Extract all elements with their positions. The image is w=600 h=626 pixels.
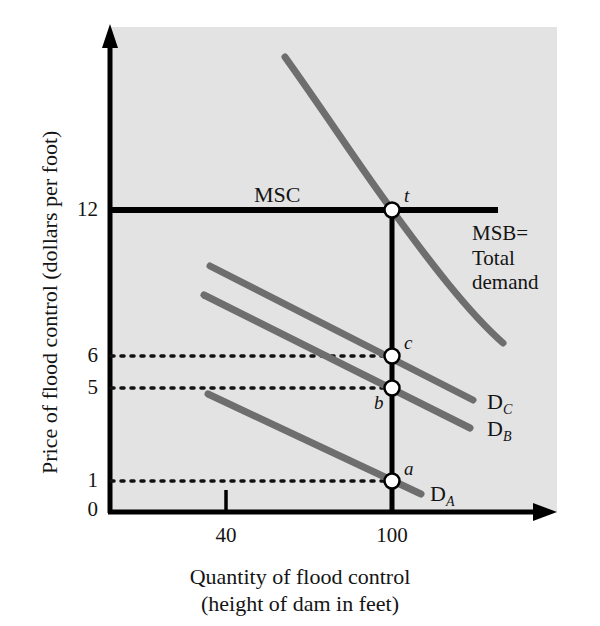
msb-label-line1: MSB=	[472, 221, 538, 246]
point-marker-c	[385, 349, 400, 364]
point-label-a: a	[404, 459, 414, 479]
msb-label-line2: Total	[472, 246, 538, 271]
x-tick-label-40: 40	[186, 524, 266, 546]
y-tick-label-6: 6	[62, 344, 98, 366]
point-marker-t	[385, 203, 400, 218]
point-label-c: c	[404, 333, 412, 353]
demand-label-dc-subscript: C	[503, 402, 512, 417]
y-tick-label-1: 1	[62, 469, 98, 491]
point-marker-b	[385, 381, 400, 396]
economics-figure: 12 6 5 1 0 40 100 MSC MSB= Total demand …	[0, 0, 600, 626]
demand-label-da-base: D	[430, 481, 446, 506]
x-axis-title-line1: Quantity of flood control	[0, 565, 600, 588]
x-axis-title-line2: (height of dam in feet)	[0, 592, 600, 615]
point-marker-a	[385, 474, 400, 489]
msc-label: MSC	[254, 183, 300, 206]
msb-total-demand-label: MSB= Total demand	[472, 221, 538, 295]
chart-canvas	[0, 0, 600, 626]
x-tick-label-100: 100	[352, 524, 432, 546]
demand-label-dc: DC	[487, 390, 512, 418]
point-label-b: b	[374, 393, 384, 413]
demand-label-db-subscript: B	[503, 429, 512, 444]
demand-label-da-subscript: A	[446, 494, 455, 509]
demand-label-db-base: D	[487, 416, 503, 441]
y-tick-label-5: 5	[62, 376, 98, 398]
demand-label-db: DB	[487, 417, 511, 445]
demand-label-da: DA	[430, 482, 454, 510]
y-tick-label-0: 0	[62, 498, 98, 520]
y-tick-label-12: 12	[62, 198, 98, 220]
demand-label-dc-base: D	[487, 389, 503, 414]
point-label-t: t	[404, 186, 409, 206]
y-axis-title: Price of flood control (dollars per foot…	[38, 131, 61, 474]
msb-label-line3: demand	[472, 270, 538, 295]
